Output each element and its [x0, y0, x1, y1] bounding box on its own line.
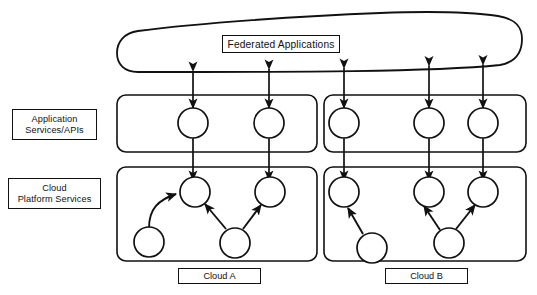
node	[357, 233, 387, 263]
node	[468, 177, 498, 207]
node	[329, 108, 359, 138]
cloud-b-tag-text: Cloud B	[410, 271, 443, 281]
cloud-a-tag: Cloud A	[178, 268, 261, 284]
node	[178, 108, 208, 138]
node	[468, 108, 498, 138]
cloud-platform-services-line2: Platform Services	[18, 194, 92, 205]
federated-applications-label: Federated Applications	[222, 35, 340, 53]
federated-cloud-diagram: Federated Applications Application Servi…	[0, 0, 537, 295]
node	[414, 108, 444, 138]
application-services-label: Application Services/APIs	[12, 109, 97, 140]
cloud-platform-services-line1: Cloud	[42, 183, 67, 194]
node	[220, 228, 250, 258]
cloud-b-tag: Cloud B	[385, 268, 468, 284]
node	[414, 177, 444, 207]
node	[255, 177, 285, 207]
node	[134, 227, 164, 257]
application-services-line2: Services/APIs	[25, 125, 83, 136]
node	[434, 228, 464, 258]
cloud-a-app-panel	[117, 95, 317, 152]
federated-applications-text: Federated Applications	[228, 39, 335, 50]
node	[329, 177, 359, 207]
cloud-a-tag-text: Cloud A	[203, 271, 235, 281]
application-services-line1: Application	[31, 114, 77, 125]
node	[180, 177, 210, 207]
node	[254, 108, 284, 138]
cloud-platform-services-label: Cloud Platform Services	[8, 178, 101, 209]
